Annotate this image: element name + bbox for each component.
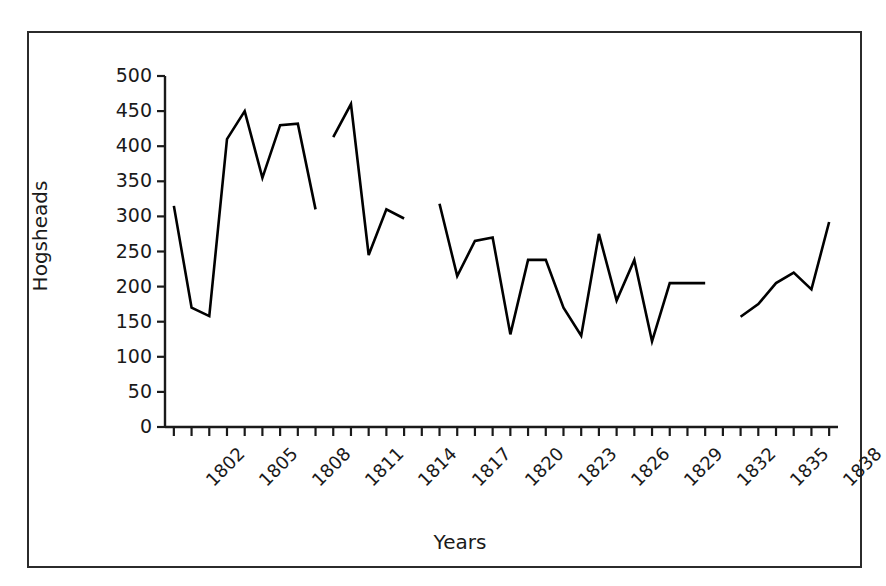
x-tick-label: 1805 xyxy=(254,443,301,490)
x-tick-label: 1838 xyxy=(839,443,886,490)
x-tick-label: 1817 xyxy=(467,443,514,490)
x-tick-label: 1826 xyxy=(626,443,673,490)
x-tick-label: 1829 xyxy=(679,443,726,490)
x-tick-label: 1832 xyxy=(733,443,780,490)
x-tick-label: 1811 xyxy=(361,443,408,490)
x-tick-label: 1820 xyxy=(520,443,567,490)
x-tick-label: 1802 xyxy=(201,443,248,490)
x-tick-label: 1835 xyxy=(786,443,833,490)
x-tick-label: 1823 xyxy=(573,443,620,490)
y-axis-title: Hogsheads xyxy=(28,156,52,316)
x-axis-title: Years xyxy=(330,530,590,554)
x-tick-label: 1808 xyxy=(308,443,355,490)
x-tick-label: 1814 xyxy=(414,443,461,490)
